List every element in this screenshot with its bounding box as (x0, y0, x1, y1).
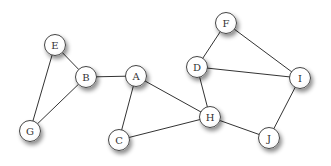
edge-C-H (119, 117, 210, 140)
node-A: A (125, 65, 147, 87)
node-label: H (206, 112, 215, 123)
node-I: I (289, 67, 311, 89)
node-label: D (193, 62, 201, 73)
node-G: G (19, 120, 41, 142)
node-D: D (186, 56, 208, 78)
graph-edges (0, 0, 331, 166)
node-label: I (298, 73, 302, 84)
graph-diagram: EBAGCFDIHJ (0, 0, 331, 166)
node-label: C (115, 135, 123, 146)
node-label: A (132, 71, 139, 82)
node-label: F (223, 18, 230, 29)
node-F: F (215, 12, 237, 34)
edge-A-H (136, 76, 210, 117)
node-label: E (51, 40, 58, 51)
node-E: E (44, 34, 66, 56)
node-H: H (199, 106, 221, 128)
node-label: B (82, 72, 89, 83)
edge-F-I (226, 23, 300, 78)
node-J: J (258, 127, 280, 149)
edge-D-I (197, 67, 300, 78)
node-C: C (108, 129, 130, 151)
node-label: G (26, 126, 34, 137)
node-label: J (267, 133, 271, 144)
node-B: B (75, 66, 97, 88)
edge-E-G (30, 45, 55, 131)
